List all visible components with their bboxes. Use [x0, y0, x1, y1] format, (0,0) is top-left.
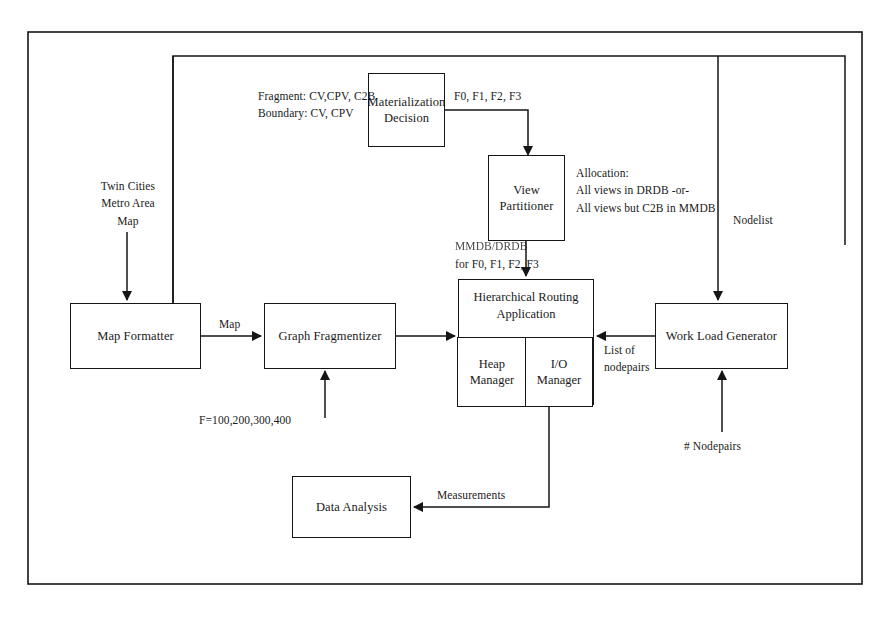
node-map-formatter[interactable]: Map Formatter	[70, 303, 201, 369]
node-view-partitioner-label: View Partitioner	[489, 182, 564, 215]
node-hierarchical-routing-application-label: Hierarchical Routing Application	[459, 289, 593, 323]
label-fragment-boundary: Fragment: CV,CPV, C2B Boundary: CV, CPV	[258, 88, 375, 123]
node-work-load-generator-label: Work Load Generator	[663, 328, 780, 345]
label-fragment-sizes: F=100,200,300,400	[199, 412, 291, 429]
label-allocation: Allocation: All views in DRDB -or- All v…	[576, 165, 716, 217]
label-list-of-nodepairs: List of nodepairs	[604, 342, 650, 377]
node-hierarchical-routing-application[interactable]: Hierarchical Routing Application Heap Ma…	[458, 279, 594, 405]
label-nodelist: Nodelist	[733, 212, 773, 229]
diagram-canvas: Map Formatter Graph Fragmentizer Materia…	[0, 0, 887, 618]
label-measurements: Measurements	[437, 487, 505, 504]
label-storage-assignment-top: MMDB/DRDB	[455, 238, 527, 255]
node-data-analysis-label: Data Analysis	[313, 499, 390, 516]
edge-materialization-to-partitioner	[444, 110, 528, 155]
label-fragments-out: F0, F1, F2, F3	[454, 88, 521, 105]
label-twin-cities-map: Twin Cities Metro Area Map	[82, 178, 174, 230]
node-io-manager[interactable]: I/O Manager	[525, 337, 593, 407]
node-map-formatter-label: Map Formatter	[94, 328, 177, 345]
label-num-nodepairs: # Nodepairs	[684, 438, 741, 455]
node-materialization-decision-label: Materialization Decision	[365, 94, 449, 127]
node-heap-manager-label: Heap Manager	[467, 356, 517, 389]
node-graph-fragmentizer[interactable]: Graph Fragmentizer	[264, 303, 396, 369]
node-work-load-generator[interactable]: Work Load Generator	[655, 303, 788, 369]
node-graph-fragmentizer-label: Graph Fragmentizer	[276, 328, 385, 345]
node-data-analysis[interactable]: Data Analysis	[292, 476, 411, 538]
label-storage-assignment-bottom: for F0, F1, F2, F3	[455, 256, 539, 273]
node-io-manager-label: I/O Manager	[534, 356, 584, 389]
label-map: Map	[219, 316, 240, 333]
node-view-partitioner[interactable]: View Partitioner	[488, 155, 565, 241]
node-materialization-decision[interactable]: Materialization Decision	[368, 73, 445, 147]
node-heap-manager[interactable]: Heap Manager	[457, 337, 526, 407]
